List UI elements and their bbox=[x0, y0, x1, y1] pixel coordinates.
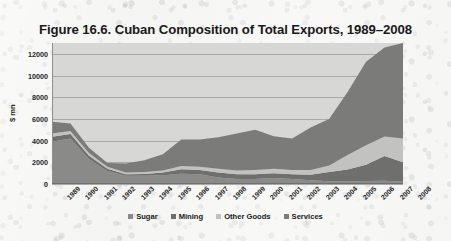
chart-legend: SugarMiningOther GoodsServices bbox=[0, 212, 451, 221]
legend-swatch-icon bbox=[128, 214, 133, 219]
legend-swatch-icon bbox=[284, 214, 289, 219]
legend-label: Other Goods bbox=[224, 212, 270, 221]
legend-label: Sugar bbox=[136, 212, 158, 221]
x-tick-label: 2006 bbox=[380, 185, 396, 201]
x-tick-label: 1996 bbox=[195, 185, 211, 201]
y-tick-label: 0 bbox=[14, 180, 48, 189]
y-axis-line bbox=[52, 43, 53, 184]
y-tick-label: 12000 bbox=[14, 50, 48, 59]
y-tick-label: 8000 bbox=[14, 93, 48, 102]
x-tick-label: 2005 bbox=[361, 185, 377, 201]
x-tick-label: 1998 bbox=[232, 185, 248, 201]
legend-item[interactable]: Mining bbox=[171, 212, 203, 221]
x-tick-label: 1994 bbox=[158, 185, 174, 201]
y-axis-title: $ mn bbox=[8, 104, 17, 122]
area-series-services bbox=[52, 43, 403, 173]
figure-container: Figure 16.6. Cuban Composition of Total … bbox=[0, 0, 451, 241]
x-tick-label: 2003 bbox=[324, 185, 340, 201]
legend-label: Services bbox=[292, 212, 323, 221]
x-tick-label: 2002 bbox=[306, 185, 322, 201]
x-tick-label: 1991 bbox=[103, 185, 119, 201]
stacked-area-series bbox=[52, 43, 403, 184]
legend-item[interactable]: Services bbox=[284, 212, 323, 221]
legend-item[interactable]: Other Goods bbox=[216, 212, 270, 221]
legend-label: Mining bbox=[179, 212, 203, 221]
x-tick-label: 2000 bbox=[269, 185, 285, 201]
chart-title: Figure 16.6. Cuban Composition of Total … bbox=[0, 22, 451, 37]
x-tick-label: 1995 bbox=[176, 185, 192, 201]
y-tick-label: 2000 bbox=[14, 158, 48, 167]
y-tick-label: 6000 bbox=[14, 115, 48, 124]
x-tick-label: 1992 bbox=[121, 185, 137, 201]
x-tick-label: 1990 bbox=[84, 185, 100, 201]
x-tick-label: 2004 bbox=[343, 185, 359, 201]
x-axis-line bbox=[52, 183, 403, 184]
x-tick-label: 1989 bbox=[66, 185, 82, 201]
x-axis-tick-labels: 1989199019911992199319941995199619971998… bbox=[52, 185, 403, 211]
y-tick-label: 4000 bbox=[14, 137, 48, 146]
plot-area bbox=[52, 43, 403, 184]
legend-swatch-icon bbox=[171, 214, 176, 219]
x-tick-label: 1993 bbox=[139, 185, 155, 201]
x-tick-label: 1999 bbox=[250, 185, 266, 201]
y-tick-label: 10000 bbox=[14, 72, 48, 81]
legend-swatch-icon bbox=[216, 214, 221, 219]
x-tick-label: 2001 bbox=[287, 185, 303, 201]
x-tick-label: 1997 bbox=[213, 185, 229, 201]
legend-item[interactable]: Sugar bbox=[128, 212, 158, 221]
